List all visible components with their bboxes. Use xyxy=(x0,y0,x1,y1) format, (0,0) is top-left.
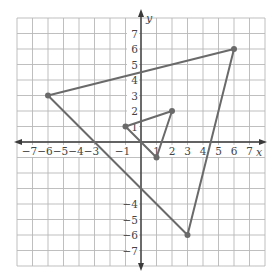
coordinate-plane: −7−6−5−4−3−11234567 7654321−4−5−6−7 x y xyxy=(0,0,279,280)
y-tick-label: −5 xyxy=(123,214,138,226)
x-tick-label: −6 xyxy=(37,145,53,157)
x-tick-label: −7 xyxy=(22,145,37,157)
x-tick-label: 6 xyxy=(231,145,238,157)
vertex-point xyxy=(154,155,160,161)
y-tick-label: 7 xyxy=(131,28,138,40)
y-axis-down-arrow-icon xyxy=(138,263,144,271)
y-axis-up-arrow-icon xyxy=(138,9,144,17)
y-tick-label: 2 xyxy=(131,105,138,117)
small-triangle xyxy=(126,111,173,158)
vertex-point xyxy=(45,93,51,99)
vertex-point xyxy=(231,46,237,52)
x-tick-labels: −7−6−5−4−3−11234567 xyxy=(22,145,256,157)
vertex-point xyxy=(169,108,175,114)
x-tick-label: −4 xyxy=(68,145,84,157)
x-tick-label: 2 xyxy=(169,145,176,157)
y-tick-label: −7 xyxy=(123,245,138,257)
x-tick-label: −1 xyxy=(115,145,130,157)
y-tick-label: 5 xyxy=(131,59,138,71)
x-tick-label: −3 xyxy=(84,145,99,157)
vertex-point xyxy=(123,124,129,130)
x-tick-label: 3 xyxy=(184,145,191,157)
y-tick-label: 4 xyxy=(131,74,138,86)
y-tick-label: 6 xyxy=(131,43,138,55)
x-tick-label: 5 xyxy=(215,145,222,157)
x-tick-label: 4 xyxy=(200,145,207,157)
x-tick-label: 7 xyxy=(246,145,253,157)
y-tick-label: −4 xyxy=(123,198,139,210)
y-axis-label: y xyxy=(145,12,153,25)
y-tick-label: −6 xyxy=(123,229,139,241)
x-tick-label: −5 xyxy=(53,145,68,157)
x-axis-label: x xyxy=(256,146,263,159)
x-axis-right-arrow-icon xyxy=(259,139,267,145)
vertex-point xyxy=(185,232,191,238)
y-tick-label: 3 xyxy=(131,90,138,102)
